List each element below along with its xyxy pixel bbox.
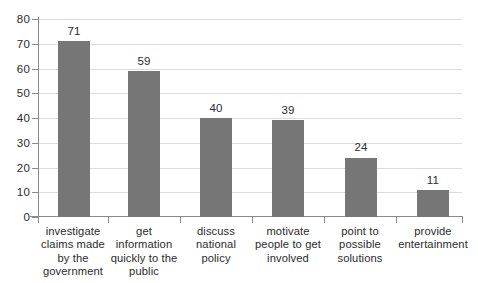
- y-tick-label-30: 30: [0, 138, 30, 150]
- bar-value-label-4: 24: [341, 142, 381, 154]
- x-category-line: get: [108, 225, 180, 238]
- x-category-label-0: investigate claims made by the governmen…: [38, 225, 108, 279]
- bar-get-information[interactable]: [128, 71, 160, 217]
- x-category-label-3: motivate people to get involved: [252, 225, 324, 265]
- x-tick-mark-6: [462, 217, 463, 223]
- x-category-line: discuss: [180, 225, 252, 238]
- x-category-line: involved: [252, 252, 324, 265]
- y-tick-label-10: 10: [0, 187, 30, 199]
- x-category-line: policy: [180, 252, 252, 265]
- y-tick-label-60: 60: [0, 64, 30, 76]
- bar-value-label-3: 39: [268, 105, 308, 117]
- bar-discuss-national-policy[interactable]: [200, 118, 232, 217]
- bar-value-label-1: 59: [124, 56, 164, 68]
- x-tick-mark-4: [324, 217, 325, 223]
- gridline-50: [38, 93, 462, 94]
- y-tick-mark-10: [32, 192, 39, 193]
- gridline-30: [38, 143, 462, 144]
- gridline-80: [38, 19, 462, 20]
- x-tick-mark-0: [38, 217, 39, 223]
- x-tick-mark-2: [180, 217, 181, 223]
- x-category-line: information: [108, 238, 180, 251]
- x-category-line: point to: [324, 225, 396, 238]
- x-tick-mark-5: [396, 217, 397, 223]
- y-tick-label-70: 70: [0, 39, 30, 51]
- x-category-line: investigate: [38, 225, 108, 238]
- x-tick-mark-3: [252, 217, 253, 223]
- x-category-line: motivate: [252, 225, 324, 238]
- bar-value-label-2: 40: [196, 103, 236, 115]
- y-tick-label-0: 0: [0, 212, 30, 224]
- y-tick-mark-70: [32, 44, 39, 45]
- bar-provide-entertainment[interactable]: [417, 190, 449, 217]
- y-tick-label-20: 20: [0, 163, 30, 175]
- x-category-line: by the: [38, 252, 108, 265]
- x-category-label-1: get information quickly to the public: [108, 225, 180, 279]
- x-category-line: possible: [324, 238, 396, 251]
- y-tick-mark-40: [32, 118, 39, 119]
- x-category-line: solutions: [324, 252, 396, 265]
- y-tick-mark-80: [32, 19, 39, 20]
- gridline-10: [38, 192, 462, 193]
- x-category-label-4: point to possible solutions: [324, 225, 396, 265]
- gridline-40: [38, 118, 462, 119]
- gridline-60: [38, 69, 462, 70]
- x-category-line: people to get: [252, 238, 324, 251]
- x-category-label-5: provide entertainment: [394, 225, 472, 252]
- x-axis-line: [30, 216, 463, 217]
- x-tick-mark-1: [108, 217, 109, 223]
- x-category-line: public: [108, 265, 180, 278]
- x-category-line: provide: [394, 225, 472, 238]
- x-category-line: government: [38, 265, 108, 278]
- gridline-70: [38, 44, 462, 45]
- bar-value-label-5: 11: [413, 175, 453, 187]
- y-tick-mark-50: [32, 93, 39, 94]
- bar-investigate-claims[interactable]: [58, 41, 90, 217]
- bar-chart: 80 70 60 50 40 30 20 10 0 71 59 40 39 24…: [0, 0, 478, 283]
- plot-area: [38, 19, 462, 217]
- bar-value-label-0: 71: [54, 26, 94, 38]
- bar-motivate-people[interactable]: [272, 120, 304, 217]
- y-tick-mark-30: [32, 143, 39, 144]
- x-category-line: entertainment: [394, 238, 472, 251]
- x-category-line: national: [180, 238, 252, 251]
- y-tick-label-40: 40: [0, 113, 30, 125]
- y-tick-mark-20: [32, 168, 39, 169]
- x-category-line: quickly to the: [108, 252, 180, 265]
- y-tick-label-80: 80: [0, 14, 30, 26]
- bar-point-to-solutions[interactable]: [345, 158, 377, 217]
- x-category-line: claims made: [38, 238, 108, 251]
- x-category-label-2: discuss national policy: [180, 225, 252, 265]
- y-tick-label-50: 50: [0, 88, 30, 100]
- gridline-20: [38, 168, 462, 169]
- y-tick-mark-60: [32, 69, 39, 70]
